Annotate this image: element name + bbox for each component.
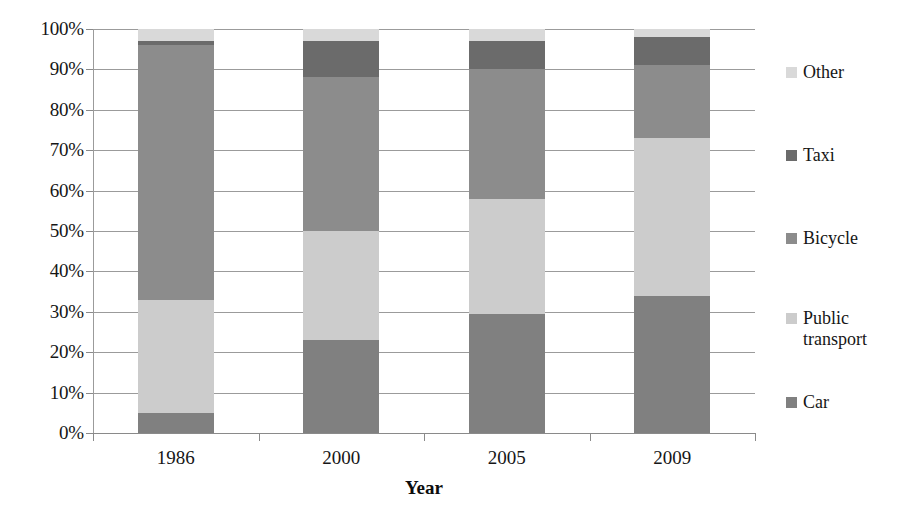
- bar-segment-other[interactable]: [469, 29, 545, 41]
- bar-stack: [634, 29, 710, 433]
- bar-segment-car[interactable]: [469, 314, 545, 433]
- legend-item-other[interactable]: Other: [786, 62, 844, 83]
- legend-swatch-icon: [786, 397, 797, 408]
- y-axis-tick-label: 10%: [50, 383, 84, 402]
- bar-segment-public-transport[interactable]: [469, 199, 545, 314]
- y-axis-tick-mark: [86, 191, 93, 192]
- y-axis-tick-mark: [86, 433, 93, 434]
- plot-area: [93, 29, 755, 433]
- stacked-bar-chart: 0%10%20%30%40%50%60%70%80%90%100% 198620…: [0, 0, 905, 517]
- legend-swatch-icon: [786, 313, 797, 324]
- bar-segment-taxi[interactable]: [634, 37, 710, 65]
- legend-label: Bicycle: [803, 228, 858, 249]
- x-axis-tick-label: 2000: [281, 447, 401, 469]
- bar-segment-bicycle[interactable]: [303, 77, 379, 231]
- x-axis-tick-mark: [93, 433, 94, 441]
- x-axis-tick-label: 2005: [447, 447, 567, 469]
- y-axis-tick-mark: [86, 110, 93, 111]
- legend-item-car[interactable]: Car: [786, 392, 829, 413]
- legend-swatch-icon: [786, 233, 797, 244]
- x-axis-tick-label: 2009: [612, 447, 732, 469]
- bar-segment-public-transport[interactable]: [303, 231, 379, 340]
- legend-item-bicycle[interactable]: Bicycle: [786, 228, 858, 249]
- legend-item-public-transport[interactable]: Public transport: [786, 308, 867, 350]
- bar-segment-other[interactable]: [303, 29, 379, 41]
- bar-segment-bicycle[interactable]: [138, 45, 214, 300]
- y-axis-tick-mark: [86, 352, 93, 353]
- bar-segment-car[interactable]: [138, 413, 214, 433]
- y-axis-tick-label: 50%: [50, 221, 84, 240]
- bar-segment-taxi[interactable]: [138, 41, 214, 45]
- y-axis-tick-label: 60%: [50, 181, 84, 200]
- y-axis-tick-mark: [86, 29, 93, 30]
- x-axis-tick-mark: [590, 433, 591, 441]
- bar-segment-other[interactable]: [634, 29, 710, 37]
- y-axis-tick-label: 0%: [59, 423, 84, 442]
- bar-segment-bicycle[interactable]: [634, 65, 710, 138]
- legend-swatch-icon: [786, 150, 797, 161]
- legend-label: Taxi: [803, 145, 835, 166]
- y-axis-tick-mark: [86, 69, 93, 70]
- y-axis-tick-label: 20%: [50, 342, 84, 361]
- bar-segment-bicycle[interactable]: [469, 69, 545, 198]
- y-axis: 0%10%20%30%40%50%60%70%80%90%100%: [0, 0, 92, 517]
- bar-stack: [138, 29, 214, 433]
- bar-segment-car[interactable]: [634, 296, 710, 433]
- bar-segment-other[interactable]: [138, 29, 214, 41]
- legend-label: Public transport: [803, 308, 867, 350]
- bar-segment-public-transport[interactable]: [138, 300, 214, 413]
- y-axis-tick-mark: [86, 231, 93, 232]
- y-axis-tick-label: 70%: [50, 140, 84, 159]
- bar-group[interactable]: [303, 29, 379, 433]
- y-axis-tick-label: 40%: [50, 261, 84, 280]
- bar-group[interactable]: [634, 29, 710, 433]
- bar-segment-taxi[interactable]: [303, 41, 379, 77]
- legend-label: Car: [803, 392, 829, 413]
- bar-segment-public-transport[interactable]: [634, 138, 710, 296]
- y-axis-tick-mark: [86, 312, 93, 313]
- y-axis-tick-label: 30%: [50, 302, 84, 321]
- legend-swatch-icon: [786, 67, 797, 78]
- y-axis-tick-label: 80%: [50, 100, 84, 119]
- legend-label: Other: [803, 62, 844, 83]
- bar-stack: [469, 29, 545, 433]
- x-axis-tick-mark: [755, 433, 756, 441]
- bar-stack: [303, 29, 379, 433]
- y-axis-tick-mark: [86, 393, 93, 394]
- bar-group[interactable]: [138, 29, 214, 433]
- y-axis-tick-label: 100%: [40, 19, 84, 38]
- x-axis-tick-mark: [259, 433, 260, 441]
- bar-segment-taxi[interactable]: [469, 41, 545, 69]
- bar-segment-car[interactable]: [303, 340, 379, 433]
- x-axis-tick-mark: [424, 433, 425, 441]
- x-axis-tick-label: 1986: [116, 447, 236, 469]
- legend-item-taxi[interactable]: Taxi: [786, 145, 835, 166]
- x-axis-title: Year: [93, 477, 755, 499]
- bar-group[interactable]: [469, 29, 545, 433]
- y-axis-tick-mark: [86, 271, 93, 272]
- y-axis-tick-mark: [86, 150, 93, 151]
- y-axis-tick-label: 90%: [50, 59, 84, 78]
